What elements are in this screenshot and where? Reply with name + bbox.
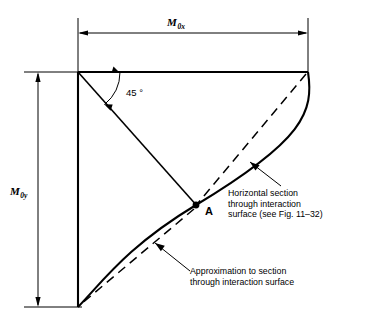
point-a-label: A: [205, 205, 213, 217]
dimension-label-m0y-symbol: M: [9, 185, 21, 197]
arrowhead-left-icon: [78, 30, 88, 35]
callout-line-2: through interaction surface: [190, 277, 294, 287]
callout-horizontal-section: Horizontal section through interaction s…: [228, 162, 323, 219]
arrowhead-right-icon: [298, 30, 308, 35]
callout-approximation-section: Approximation to section through interac…: [155, 243, 294, 287]
arrowhead-up-icon: [35, 72, 40, 82]
callout-line-1: Approximation to section: [190, 266, 286, 276]
arrowhead-down-icon: [35, 297, 40, 307]
witness-lines: [24, 18, 308, 307]
dashed-line-upper: [198, 74, 306, 203]
callout-line-2: through interaction: [228, 199, 301, 209]
angle-arc-arrowhead-top-icon: [112, 67, 121, 74]
callout-text-approximation-section: Approximation to section through interac…: [190, 266, 294, 287]
dashed-line-lower: [80, 209, 194, 305]
diagonal-45-line-group: 45 °: [78, 67, 198, 208]
angle-label-45: 45 °: [126, 87, 143, 98]
biaxial-moment-diagram: M0x M0y 45 °: [0, 0, 376, 325]
dimension-label-m0x-subscript: 0x: [177, 22, 185, 31]
figure-container: M0x M0y 45 °: [0, 0, 376, 325]
callout-line-1: Horizontal section: [228, 188, 298, 198]
dimension-label-m0y: M0y: [9, 185, 28, 200]
angle-arc-icon: [105, 72, 121, 105]
point-a-marker: [193, 202, 200, 209]
dimension-label-m0y-subscript: 0y: [20, 191, 28, 200]
callout-text-horizontal-section: Horizontal section through interaction s…: [228, 188, 323, 219]
dimension-label-m0x: M0x: [166, 16, 185, 31]
point-a-group: A: [193, 202, 213, 217]
dimension-vertical-m0y: M0y: [9, 72, 41, 307]
callout-line-3: surface (see Fig. 11–32): [228, 209, 323, 219]
dimension-horizontal-m0x: M0x: [78, 16, 308, 36]
dimension-label-m0x-symbol: M: [166, 16, 178, 28]
